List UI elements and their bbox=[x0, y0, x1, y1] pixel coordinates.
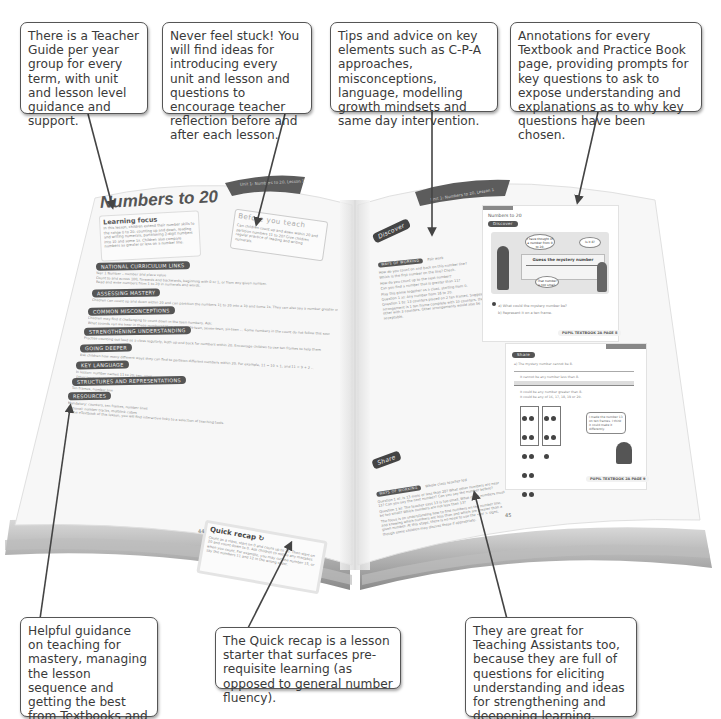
callout-helpful-guidance: Helpful guidance on teaching for mastery… bbox=[20, 617, 158, 717]
pointer-teaching-assistants bbox=[475, 495, 507, 619]
pointer-quick-recap bbox=[248, 545, 290, 628]
callout-annotations: Annotations for every Textbook and Pract… bbox=[510, 22, 702, 112]
callout-tips-advice: Tips and advice on key elements such as … bbox=[330, 22, 498, 112]
callout-teaching-assistants: They are great for Teaching Assistants t… bbox=[465, 617, 637, 717]
pointer-helpful-guidance bbox=[36, 408, 70, 647]
callout-never-stuck: Never feel stuck! You will find ideas fo… bbox=[162, 22, 312, 114]
callout-quick-recap: The Quick recap is a lesson starter that… bbox=[215, 627, 401, 689]
pointer-teacher-guide bbox=[88, 114, 112, 205]
callout-teacher-guide: There is a Teacher Guide per year group … bbox=[20, 22, 148, 114]
